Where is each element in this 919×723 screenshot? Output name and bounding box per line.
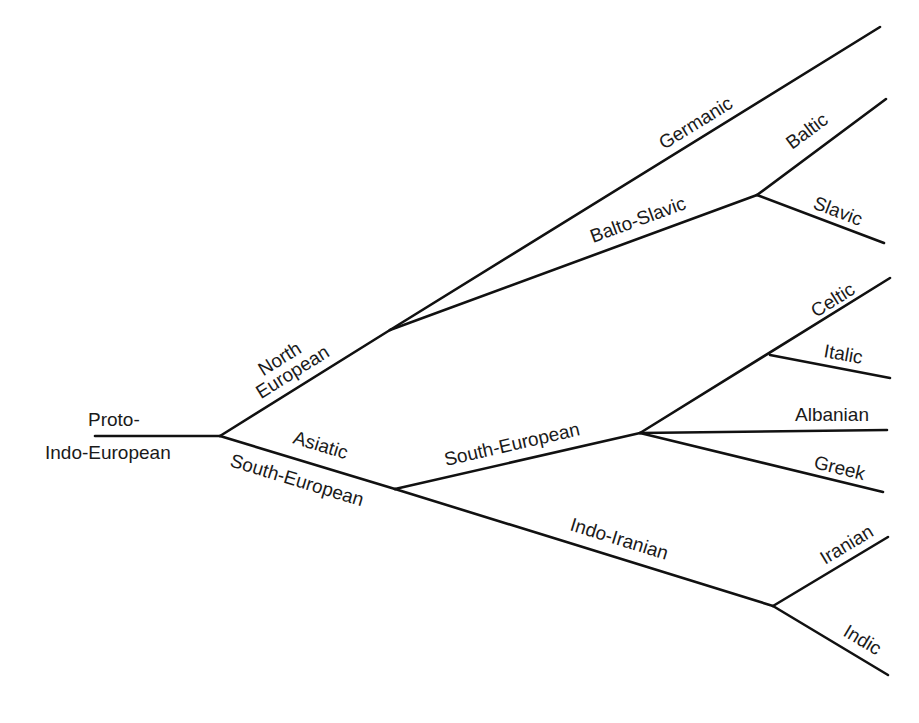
indic-label: Indic — [840, 620, 885, 659]
albanian-line — [640, 430, 887, 433]
north-european-line — [220, 330, 390, 436]
italic-label: Italic — [822, 340, 864, 367]
indo-iranian-line — [395, 489, 773, 606]
albanian-label: Albanian — [795, 404, 869, 425]
root-label-line2: Indo-European — [45, 442, 171, 463]
indo-iranian-label: Indo-Iranian — [568, 514, 671, 564]
asiatic-label: Asiatic — [291, 427, 351, 463]
greek-label: Greek — [812, 451, 868, 484]
language-family-tree: Proto- Indo-European North European Germ… — [0, 0, 919, 723]
root-label-line1: Proto- — [88, 409, 140, 430]
germanic-line — [390, 27, 880, 330]
